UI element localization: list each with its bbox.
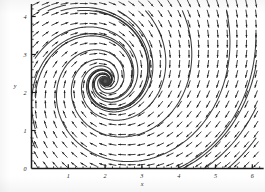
x-axis-label: x [140,180,144,187]
y-tick-label: 3 [22,51,26,58]
vector-field-plot: 12345612340 x y [0,0,265,192]
x-tick-label: 1 [67,172,70,179]
x-tick-label: 5 [214,172,217,179]
x-tick-label: 2 [104,172,107,179]
y-tick-label: 2 [23,89,26,96]
plot-background [0,0,265,192]
y-tick-label: 1 [23,127,26,134]
phase-portrait-figure: 12345612340 x y [0,0,265,192]
x-tick-label: 4 [177,172,180,179]
y-tick-label: 4 [23,13,26,20]
equilibrium-focus-marker [99,77,112,86]
x-tick-label: 3 [139,172,143,179]
y-axis-label: y [13,82,17,89]
